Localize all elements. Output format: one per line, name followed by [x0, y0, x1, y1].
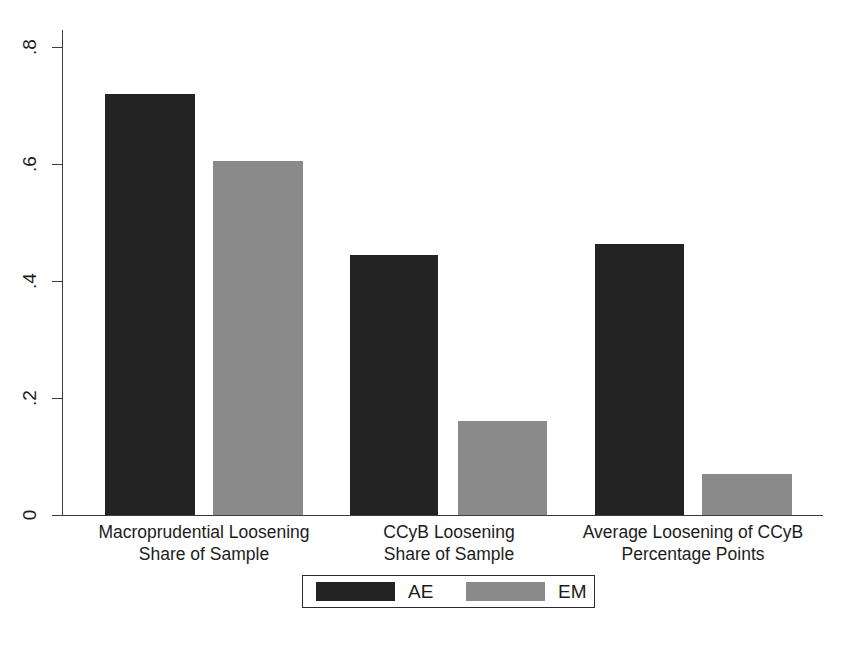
legend-entry-em: EM [466, 576, 587, 607]
bar-ae-group1 [105, 94, 195, 515]
bar-em-group3 [702, 474, 792, 515]
bar-chart: .8.6.4.20 Macroprudential LooseningShare… [0, 0, 857, 646]
legend-label-ae: AE [408, 581, 433, 603]
y-tick-mark [52, 398, 62, 399]
category-label-line2: Percentage Points [493, 543, 857, 565]
y-tick-mark [52, 47, 62, 48]
legend-swatch-ae-icon [316, 582, 395, 601]
bars-layer [62, 30, 823, 515]
legend-entry-ae: AE [316, 576, 433, 607]
y-tick-label: .8 [20, 27, 40, 67]
legend-label-em: EM [558, 581, 587, 603]
bar-em-group2 [458, 421, 547, 515]
y-tick-mark [52, 515, 62, 516]
bar-em-group1 [213, 161, 303, 515]
bar-ae-group2 [350, 255, 438, 515]
y-tick-mark [52, 164, 62, 165]
y-tick-label: .6 [20, 144, 40, 184]
y-tick-label: .2 [20, 378, 40, 418]
x-axis-line [62, 515, 823, 516]
legend-swatch-em-icon [466, 582, 545, 601]
legend: AE EM [302, 575, 595, 608]
category-label-3: Average Loosening of CCyBPercentage Poin… [493, 521, 857, 565]
y-tick-label: .4 [20, 261, 40, 301]
category-label-line1: Average Loosening of CCyB [583, 522, 804, 542]
bar-ae-group3 [595, 244, 684, 515]
y-tick-mark [52, 281, 62, 282]
